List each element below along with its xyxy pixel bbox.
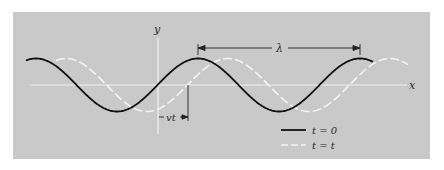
traveling-wave-diagram: x y λ vt t = 0 t = t — [0, 0, 444, 170]
displacement-label: vt — [166, 112, 177, 123]
legend-label-t0: t = 0 — [312, 125, 338, 136]
y-axis-label: y — [153, 23, 161, 36]
x-axis-label: x — [409, 79, 416, 92]
wavelength-label: λ — [275, 42, 283, 55]
legend-label-tt: t = t — [312, 140, 336, 151]
